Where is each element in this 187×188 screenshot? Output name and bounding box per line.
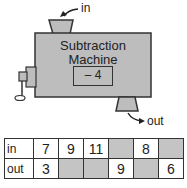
table-cell: 3	[34, 159, 59, 179]
machine-rule-display: – 4	[73, 66, 113, 86]
table-cell: 6	[159, 159, 184, 179]
in-label: in	[81, 1, 90, 15]
out-label: out	[147, 114, 164, 128]
input-hopper	[49, 20, 73, 34]
in-out-table: in 7 9 11 8 out 3 9 6	[4, 138, 184, 179]
row-label: out	[5, 159, 34, 179]
table-cell: 8	[134, 139, 159, 159]
machine-title-line1: Subtraction	[34, 38, 152, 53]
output-hopper	[116, 97, 138, 111]
table-cell-blank[interactable]	[134, 159, 159, 179]
table-cell-blank[interactable]	[84, 159, 109, 179]
table-cell: 11	[84, 139, 109, 159]
row-label: in	[5, 139, 34, 159]
table-cell-blank[interactable]	[59, 159, 84, 179]
table-cell: 7	[34, 139, 59, 159]
table-cell: 9	[59, 139, 84, 159]
table-cell-blank[interactable]	[109, 139, 134, 159]
table-row-in: in 7 9 11 8	[5, 139, 184, 159]
machine-title-line2: Machine	[34, 52, 152, 67]
table-cell: 9	[109, 159, 134, 179]
table-cell-blank[interactable]	[159, 139, 184, 159]
table-row-out: out 3 9 6	[5, 159, 184, 179]
